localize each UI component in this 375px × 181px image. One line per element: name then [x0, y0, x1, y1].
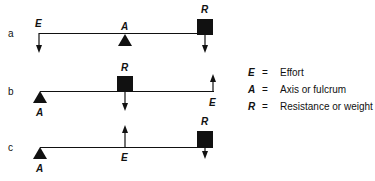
- resistance-label: R: [121, 62, 129, 73]
- resistance-arrow-down-icon: [202, 35, 208, 53]
- axis-label: A: [120, 21, 128, 32]
- panel-b: b A R E: [8, 62, 216, 118]
- effort-arrow-up-icon: [210, 74, 216, 91]
- axis-label: A: [35, 107, 43, 118]
- legend-symbol: E: [248, 67, 255, 78]
- legend-meaning: Axis or fulcrum: [280, 84, 346, 95]
- legend: E = Effort A = Axis or fulcrum R = Resis…: [247, 67, 373, 112]
- legend-item-axis: A = Axis or fulcrum: [247, 84, 346, 95]
- resistance-label: R: [201, 4, 209, 15]
- effort-label: E: [35, 18, 42, 29]
- legend-equals: =: [262, 101, 268, 112]
- legend-meaning: Resistance or weight: [280, 101, 373, 112]
- resistance-weight-icon: [197, 131, 213, 148]
- legend-item-effort: E = Effort: [248, 67, 304, 78]
- legend-equals: =: [262, 84, 268, 95]
- legend-item-resistance: R = Resistance or weight: [248, 101, 373, 112]
- legend-symbol: R: [248, 101, 256, 112]
- panel-label: c: [8, 142, 13, 153]
- effort-arrow-up-icon: [122, 125, 128, 147]
- panel-a: a E A R: [8, 4, 213, 53]
- panel-label: a: [8, 28, 14, 39]
- resistance-arrow-down-icon: [202, 148, 208, 159]
- panel-c: c A E R: [8, 116, 213, 174]
- resistance-weight-icon: [117, 76, 133, 92]
- panel-label: b: [8, 86, 14, 97]
- resistance-weight-icon: [197, 19, 213, 35]
- resistance-label: R: [201, 116, 209, 127]
- lever-diagram: a E A R b A R E: [0, 0, 375, 181]
- legend-equals: =: [262, 67, 268, 78]
- effort-arrow-down-icon: [36, 33, 42, 53]
- effort-label: E: [209, 97, 216, 108]
- fulcrum-triangle-icon: [118, 34, 132, 46]
- fulcrum-triangle-icon: [33, 147, 47, 159]
- legend-meaning: Effort: [280, 67, 304, 78]
- fulcrum-triangle-icon: [33, 91, 47, 103]
- effort-label: E: [121, 152, 128, 163]
- resistance-arrow-down-icon: [122, 92, 128, 111]
- legend-symbol: A: [247, 84, 255, 95]
- axis-label: A: [35, 163, 43, 174]
